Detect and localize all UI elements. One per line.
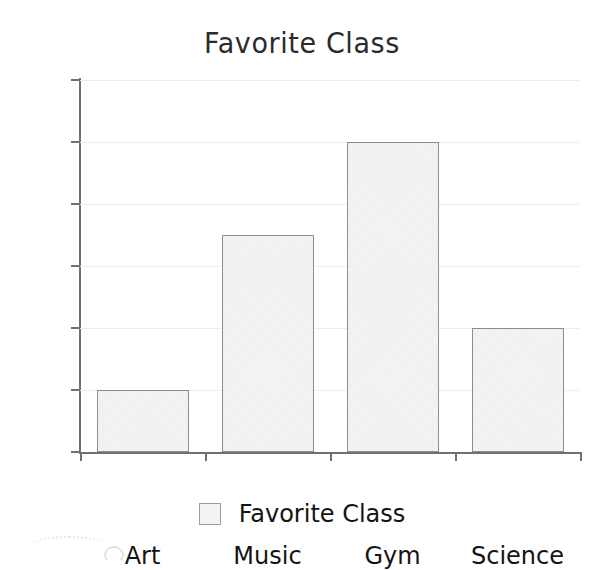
- y-axis-tick: [71, 79, 80, 81]
- x-axis-tick: [580, 452, 582, 461]
- gridline: [80, 204, 580, 205]
- bar-music[interactable]: [222, 235, 314, 452]
- x-axis-tick: [330, 452, 332, 461]
- chart-legend: Favorite Class: [0, 500, 604, 528]
- gridline: [80, 80, 580, 81]
- bar-science[interactable]: [472, 328, 564, 452]
- scan-artifact: [30, 536, 108, 556]
- y-axis-tick: [71, 451, 80, 453]
- gridline: [80, 266, 580, 267]
- x-axis-tick: [455, 452, 457, 461]
- y-axis-tick: [71, 389, 80, 391]
- y-axis-tick: [71, 265, 80, 267]
- chart-title: Favorite Class: [0, 27, 604, 60]
- plot-area: 024681012ArtMusicGymScience: [80, 80, 580, 452]
- bar-art[interactable]: [97, 390, 189, 452]
- bar-gym[interactable]: [347, 142, 439, 452]
- scan-artifact-mark: [104, 546, 124, 564]
- y-axis-tick: [71, 203, 80, 205]
- y-axis-tick: [71, 327, 80, 329]
- x-axis-label-music: Music: [205, 542, 330, 570]
- x-axis-label-gym: Gym: [330, 542, 455, 570]
- legend-label: Favorite Class: [239, 500, 406, 528]
- x-axis-label-science: Science: [455, 542, 580, 570]
- gridline: [80, 142, 580, 143]
- x-axis-tick: [80, 452, 82, 461]
- y-axis-tick: [71, 141, 80, 143]
- legend-swatch-icon: [199, 503, 221, 525]
- x-axis-tick: [205, 452, 207, 461]
